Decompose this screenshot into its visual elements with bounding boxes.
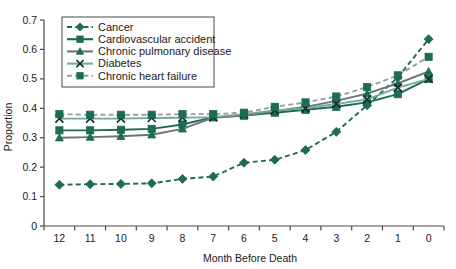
data-point-square [302, 99, 309, 106]
data-point-square [77, 36, 83, 42]
data-point-square [394, 72, 401, 79]
x-tick-label: 4 [303, 232, 309, 244]
data-point-square [210, 111, 217, 118]
legend-label: Chronic pulmonary disease [98, 45, 231, 57]
data-point-square [240, 109, 247, 116]
y-tick-label: 0.1 [22, 190, 37, 202]
data-point-square [179, 111, 186, 118]
y-tick-label: 0 [31, 220, 37, 232]
y-axis-title: Proportion [2, 103, 14, 152]
legend-label: Diabetes [98, 57, 142, 69]
x-tick-label: 1 [395, 232, 401, 244]
legend-label: Chronic heart failure [98, 70, 197, 82]
x-tick-label: 3 [333, 232, 339, 244]
data-point-square [394, 91, 401, 98]
data-point-square [363, 83, 370, 90]
data-point-square [425, 53, 432, 60]
x-tick-label: 12 [54, 232, 66, 244]
y-tick-label: 0.7 [22, 14, 37, 26]
x-axis-title: Month Before Death [203, 252, 297, 264]
x-tick-label: 9 [149, 232, 155, 244]
legend: CancerCardiovascular accidentChronic pul… [62, 17, 231, 87]
x-tick-label: 0 [426, 232, 432, 244]
y-tick-label: 0.2 [22, 161, 37, 173]
x-tick-label: 7 [210, 232, 216, 244]
x-tick-label: 2 [364, 232, 370, 244]
legend-label: Cardiovascular accident [98, 33, 215, 45]
data-point-square [333, 93, 340, 100]
data-point-square [87, 111, 94, 118]
data-point-square [77, 73, 83, 79]
x-tick-label: 6 [241, 232, 247, 244]
data-point-square [117, 111, 124, 118]
x-tick-label: 8 [180, 232, 186, 244]
data-point-square [271, 103, 278, 110]
x-tick-label: 5 [272, 232, 278, 244]
y-tick-label: 0.5 [22, 72, 37, 84]
y-tick-label: 0.4 [22, 102, 37, 114]
y-tick-label: 0.6 [22, 43, 37, 55]
line-chart: 00.10.20.30.40.50.60.7 1211109876543210 … [0, 0, 456, 269]
legend-label: Cancer [98, 21, 134, 33]
data-point-square [56, 111, 63, 118]
x-tick-label: 10 [115, 232, 127, 244]
data-point-square [56, 127, 63, 134]
chart-container: 00.10.20.30.40.50.60.7 1211109876543210 … [0, 0, 456, 269]
x-tick-label: 11 [85, 232, 96, 244]
y-tick-label: 0.3 [22, 131, 37, 143]
data-point-square [148, 111, 155, 118]
